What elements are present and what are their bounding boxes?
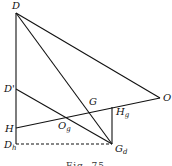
label-Og: Og [58, 120, 71, 133]
segment-Dp-Gd [16, 89, 112, 144]
label-Hg: Hg [115, 106, 130, 119]
figure-caption: Fig. 75 [66, 161, 105, 166]
perspective-diagram: D D' H Dh G Hg Gd Og O Fig. 75 [0, 0, 172, 166]
label-Gd: Gd [115, 143, 128, 156]
segment-D-O [16, 13, 160, 98]
label-Dh: Dh [3, 139, 17, 152]
segment-H-O [16, 98, 160, 128]
label-H: H [4, 123, 14, 134]
label-D: D [11, 0, 20, 11]
label-D-prime: D' [3, 83, 15, 94]
label-G: G [89, 96, 97, 107]
label-O: O [163, 92, 171, 103]
